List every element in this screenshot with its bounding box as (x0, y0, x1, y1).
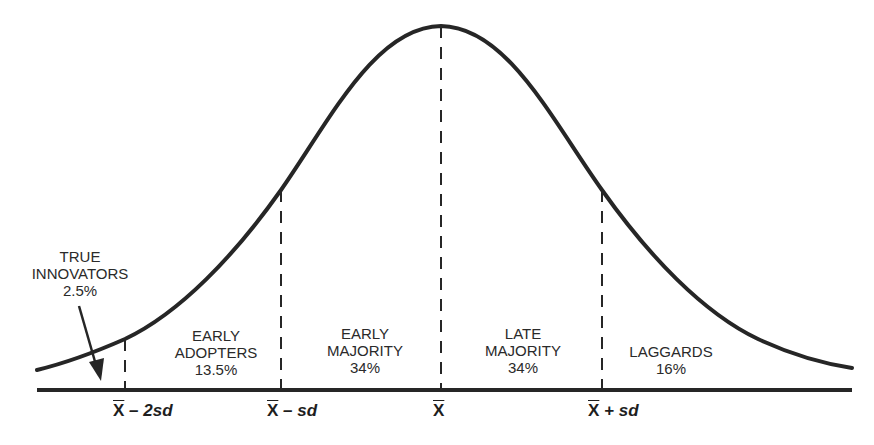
tick-minus-sd: X – sd (267, 401, 317, 421)
curve-svg (0, 0, 874, 445)
tick-offset: – 2sd (124, 401, 172, 420)
laggards-line1: LAGGARDS (629, 343, 712, 360)
label-true-innovators: TRUE INNOVATORS 2.5% (32, 248, 129, 299)
late-majority-line1: LATE (485, 325, 561, 342)
early-majority-line2: MAJORITY (327, 342, 403, 359)
bell-curve (37, 26, 852, 370)
label-laggards: LAGGARDS 16% (629, 343, 712, 377)
early-adopters-percent: 13.5% (175, 361, 258, 378)
tick-minus-2sd: X – 2sd (113, 401, 173, 421)
arrow-icon (79, 306, 104, 381)
label-late-majority: LATE MAJORITY 34% (485, 325, 561, 376)
early-majority-percent: 34% (327, 359, 403, 376)
x-bar-symbol: X (113, 401, 124, 420)
laggards-percent: 16% (629, 360, 712, 377)
tick-plus-sd: X + sd (588, 401, 639, 421)
adopter-curve-diagram: TRUE INNOVATORS 2.5% EARLY ADOPTERS 13.5… (0, 0, 874, 445)
innovators-percent: 2.5% (32, 282, 129, 299)
x-bar-symbol: X (267, 401, 278, 420)
label-early-adopters: EARLY ADOPTERS 13.5% (175, 327, 258, 378)
early-majority-line1: EARLY (327, 325, 403, 342)
innovators-line2: INNOVATORS (32, 265, 129, 282)
tick-offset: – sd (278, 401, 317, 420)
early-adopters-line1: EARLY (175, 327, 258, 344)
late-majority-percent: 34% (485, 359, 561, 376)
tick-mean: X (433, 401, 444, 421)
x-bar-symbol: X (588, 401, 599, 420)
label-early-majority: EARLY MAJORITY 34% (327, 325, 403, 376)
late-majority-line2: MAJORITY (485, 342, 561, 359)
early-adopters-line2: ADOPTERS (175, 344, 258, 361)
innovators-line1: TRUE (32, 248, 129, 265)
x-bar-symbol: X (433, 401, 444, 420)
tick-offset: + sd (599, 401, 638, 420)
